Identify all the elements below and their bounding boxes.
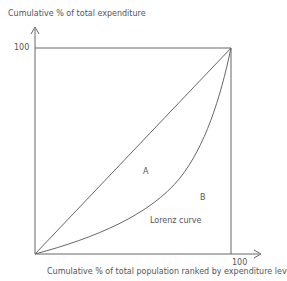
lorenz-diagram xyxy=(0,0,287,281)
y-axis-label: Cumulative % of total expenditure xyxy=(8,9,146,18)
equality-line xyxy=(35,48,231,254)
y-axis-tick-100: 100 xyxy=(14,43,29,52)
x-axis-tick-100: 100 xyxy=(232,258,247,267)
area-a-label: A xyxy=(143,167,148,176)
x-axis-label: Cumulative % of total population ranked … xyxy=(47,267,287,276)
area-b-label: B xyxy=(200,193,206,202)
lorenz-curve-label: Lorenz curve xyxy=(150,216,201,225)
